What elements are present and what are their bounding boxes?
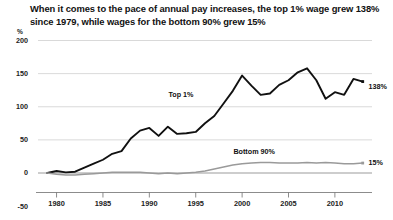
- x-axis-tick-label: 1980: [37, 199, 77, 208]
- x-axis-tick-label: 1995: [176, 199, 216, 208]
- series-name-label: Bottom 90%: [233, 147, 275, 156]
- series-line: [47, 68, 362, 173]
- x-axis-tick-label: 2010: [315, 199, 355, 208]
- y-axis-tick-label: -50: [2, 202, 28, 211]
- series-endpoint-marker: [361, 80, 364, 83]
- series-name-label: Top 1%: [168, 90, 193, 99]
- x-axis-tick-label: 1985: [83, 199, 123, 208]
- line-chart-plot: [0, 0, 393, 220]
- x-axis-tick-label: 1990: [129, 199, 169, 208]
- y-axis-tick-label: 150: [2, 69, 28, 78]
- endpoint-value-label: 15%: [368, 158, 382, 167]
- x-axis-ticks: [57, 193, 335, 198]
- endpoint-value-label: 138%: [368, 82, 386, 91]
- gridlines: [38, 41, 372, 174]
- series-lines: [47, 68, 362, 175]
- series-endpoint-marker: [361, 162, 364, 165]
- x-axis-tick-label: 2005: [269, 199, 309, 208]
- y-axis-tick-label: 0: [2, 168, 28, 177]
- chart-figure: When it comes to the pace of annual pay …: [0, 0, 393, 220]
- x-axis-tick-label: 2000: [222, 199, 262, 208]
- y-axis-tick-label: 50: [2, 135, 28, 144]
- y-axis-tick-label: 100: [2, 102, 28, 111]
- y-axis-tick-label: 200: [2, 36, 28, 45]
- endpoint-markers: [361, 80, 364, 164]
